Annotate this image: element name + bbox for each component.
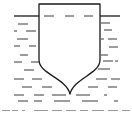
- caption-glyph: [122, 110, 130, 111]
- caption-glyph: [66, 110, 76, 111]
- caption-glyph: [80, 110, 88, 111]
- figure-caption: [0, 107, 132, 114]
- caption-glyph: [22, 110, 25, 111]
- caption-glyph: [52, 110, 62, 111]
- caption-glyph: [34, 110, 48, 111]
- vessel-diagram: [0, 0, 132, 114]
- caption-glyph: [12, 110, 18, 111]
- caption-glyph: [2, 110, 10, 111]
- caption-glyph: [108, 110, 118, 111]
- vessel-hull-outline: [39, 4, 100, 94]
- caption-glyph: [92, 110, 104, 111]
